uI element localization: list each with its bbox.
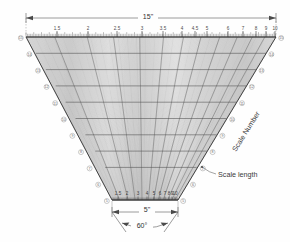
edge-marker-value: 12 [250,85,254,89]
bottom-scale-tick-label: 1.5 [115,191,122,196]
bottom-scale-tick-label: 4 [146,191,149,196]
edge-marker: 12 [44,84,49,89]
edge-marker: 15 [18,36,23,41]
edge-marker: 12 [249,84,254,89]
edge-marker: 13 [259,68,264,73]
top-dimension-value: 15" [143,13,154,20]
edge-marker-value: 13 [260,69,264,73]
bottom-scale-tick-label: 6 [159,191,162,196]
edge-marker-value: 14 [269,53,273,57]
edge-marker: 14 [27,52,32,57]
edge-marker-value: 5 [106,199,108,203]
top-scale-tick-label: 2.5 [114,26,121,31]
top-scale-tick-label: 9 [265,26,268,31]
nomograph-svg: 15" 1.522.533.544.55678910 1.52345678910… [0,0,290,242]
top-scale-tick-label: 1.5 [54,26,61,31]
edge-marker-value: 9 [221,134,223,138]
bottom-scale-tick-label: 3 [137,191,140,196]
angle-dimension-value: 60° [137,222,148,229]
top-scale-tick-label: 7 [242,26,245,31]
top-scale-tick-label: 4 [181,26,184,31]
edge-marker-value: 8 [80,150,82,154]
scale-length-label: Scale length [218,170,258,179]
top-scale-tick-label: 5 [206,26,209,31]
top-scale-tick-label: 3.5 [160,26,167,31]
edge-marker-value: 14 [27,53,31,57]
top-scale-tick-label: 3 [141,26,144,31]
edge-marker-value: 10 [230,118,234,122]
top-scale-tick-label: 8 [255,26,258,31]
edge-marker-value: 9 [71,134,73,138]
edge-marker-value: 10 [62,118,66,122]
bottom-scale-tick-label: 7 [164,191,167,196]
edge-marker-value: 5 [182,199,184,203]
edge-marker: 10 [230,117,235,122]
edge-marker-value: 12 [45,85,49,89]
edge-marker-value: 15 [279,36,283,40]
edge-marker: 15 [279,36,284,41]
diagram-root: 15" 1.522.533.544.55678910 1.52345678910… [0,0,290,242]
bottom-scale-tick-label: 5 [153,191,156,196]
edge-marker: 13 [36,68,41,73]
top-scale-tick-label: 10 [272,26,278,31]
edge-marker: 10 [61,117,66,122]
edge-marker-value: 13 [36,69,40,73]
top-scale-tick-label: 4.5 [192,26,199,31]
top-scale-tick-label: 2 [87,26,90,31]
edge-marker-value: 6 [192,183,194,187]
edge-marker-value: 7 [89,167,91,171]
bottom-scale-tick-label: 2 [126,191,129,196]
edge-marker: 11 [53,101,58,106]
edge-marker-value: 15 [19,36,23,40]
edge-marker-value: 6 [97,183,99,187]
edge-marker: 14 [269,52,274,57]
top-scale-tick-label: 6 [227,26,230,31]
edge-marker-value: 11 [240,102,244,106]
edge-marker-value: 8 [212,150,214,154]
edge-marker-value: 11 [53,102,57,106]
bottom-dimension-value: 5" [144,206,151,213]
bottom-scale-tick-label: 10 [172,191,178,196]
edge-marker: 11 [240,101,245,106]
